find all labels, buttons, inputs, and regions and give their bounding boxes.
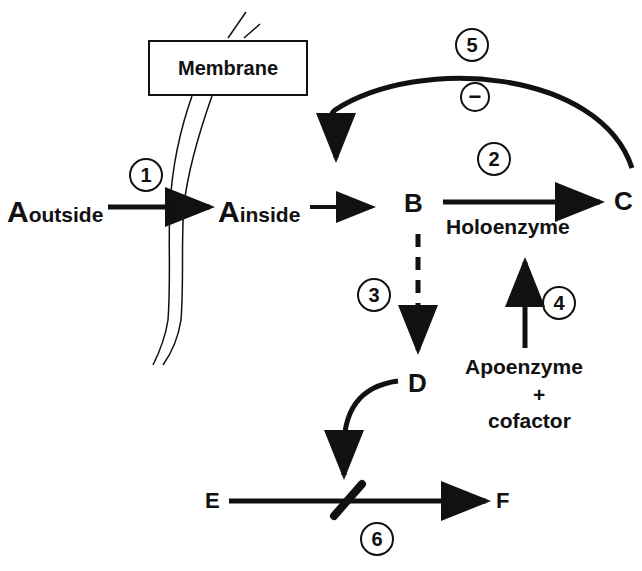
membrane-label-box: Membrane <box>148 40 308 96</box>
node-e: E <box>205 490 220 512</box>
node-b: B <box>404 190 423 216</box>
node-a-outside-main: A <box>7 195 29 228</box>
step-5-marker: 5 <box>455 28 489 62</box>
step-4-marker: 4 <box>542 286 576 320</box>
arrow-d-to-ef <box>344 381 398 475</box>
step-2-marker: 2 <box>477 142 511 176</box>
node-f: F <box>496 490 509 512</box>
node-a-outside-sub: outside <box>29 203 104 226</box>
transporter-dot <box>168 205 178 215</box>
node-a-outside: Aoutside <box>7 197 103 227</box>
step-1-marker: 1 <box>129 158 163 192</box>
plus-label: + <box>533 384 545 405</box>
membrane-label: Membrane <box>178 57 278 79</box>
cofactor-label: cofactor <box>488 410 571 431</box>
node-c: C <box>614 188 633 214</box>
node-a-inside-main: A <box>218 195 240 228</box>
holoenzyme-label: Holoenzyme <box>446 216 570 237</box>
node-a-inside-sub: inside <box>240 203 301 226</box>
inhibition-minus-icon: − <box>460 82 490 112</box>
metabolic-pathway-diagram: Membrane Aoutside Ainside B C D E F Holo… <box>0 0 642 571</box>
apoenzyme-label: Apoenzyme <box>465 356 583 377</box>
node-d: D <box>408 370 427 396</box>
node-a-inside: Ainside <box>218 197 300 227</box>
step-3-marker: 3 <box>357 278 391 312</box>
diagram-lines <box>0 0 642 571</box>
step-6-marker: 6 <box>360 522 394 556</box>
